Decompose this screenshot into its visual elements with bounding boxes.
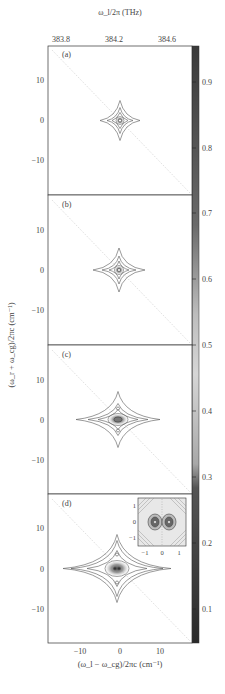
svg-text:−10: −10	[31, 605, 44, 614]
svg-text:0.4: 0.4	[202, 407, 212, 416]
svg-text:0: 0	[40, 416, 44, 425]
svg-text:10: 10	[36, 226, 44, 235]
svg-text:10: 10	[36, 376, 44, 385]
colorbar	[192, 46, 199, 643]
svg-text:0: 0	[118, 647, 122, 656]
svg-text:10: 10	[36, 524, 44, 533]
panel-label: (c)	[62, 350, 71, 359]
svg-text:0.7: 0.7	[202, 209, 212, 218]
top-axis-label: ω_l/2π (THz)	[98, 8, 142, 17]
svg-text:0: 0	[40, 565, 44, 574]
top-tick-label: 383.8	[52, 35, 70, 44]
svg-text:1: 1	[133, 502, 136, 509]
svg-text:0.3: 0.3	[202, 473, 212, 482]
svg-text:0: 0	[160, 549, 163, 556]
figure: ω_l/2π (THz) 383.8 384.2 384.6 (ω_r + ω_…	[0, 0, 225, 694]
panel-d: (d) 10 0 −10	[31, 494, 192, 643]
svg-text:−1: −1	[129, 534, 136, 541]
svg-text:−10: −10	[31, 156, 44, 165]
svg-text:−10: −10	[74, 647, 87, 656]
svg-text:0.2: 0.2	[202, 539, 212, 548]
panel-label: (b)	[62, 200, 72, 209]
svg-text:0.1: 0.1	[202, 605, 212, 614]
svg-text:0: 0	[40, 266, 44, 275]
svg-text:1: 1	[177, 549, 180, 556]
left-axis-label: (ω_r + ω_cg)/2πc (cm⁻¹)	[6, 302, 16, 387]
svg-text:0: 0	[133, 518, 136, 525]
panel-c: (c) 10 0 −10	[31, 345, 192, 494]
panel-label: (d)	[62, 499, 72, 508]
panel-label: (a)	[62, 50, 71, 59]
bottom-ticks: −10 0 10	[74, 647, 164, 656]
top-tick-label: 384.6	[158, 35, 176, 44]
panel-b: (b) 10 0 −10	[31, 195, 192, 345]
svg-text:0.9: 0.9	[202, 78, 212, 87]
svg-text:0: 0	[40, 116, 44, 125]
top-tick-label: 384.2	[105, 35, 123, 44]
panel-a: (a) 10 0 −10	[31, 46, 192, 195]
svg-text:10: 10	[36, 76, 44, 85]
bottom-axis-label: (ω_l − ω_cg)/2πc (cm⁻¹)	[78, 659, 163, 669]
svg-text:0.8: 0.8	[202, 144, 212, 153]
svg-text:0.6: 0.6	[202, 275, 212, 284]
svg-text:−10: −10	[31, 456, 44, 465]
svg-text:10: 10	[156, 647, 164, 656]
svg-text:−1: −1	[142, 549, 149, 556]
svg-text:0.5: 0.5	[202, 341, 212, 350]
svg-text:−10: −10	[31, 306, 44, 315]
